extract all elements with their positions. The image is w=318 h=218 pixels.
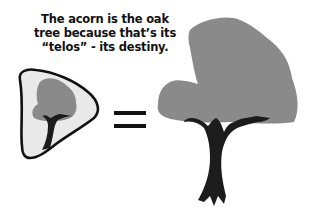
oak-tree-icon <box>158 18 298 206</box>
acorn-icon <box>20 69 98 158</box>
diagram-canvas <box>0 0 318 218</box>
oak-canopy <box>158 18 298 124</box>
oak-trunk <box>184 116 270 206</box>
equals-sign-icon <box>114 111 146 128</box>
